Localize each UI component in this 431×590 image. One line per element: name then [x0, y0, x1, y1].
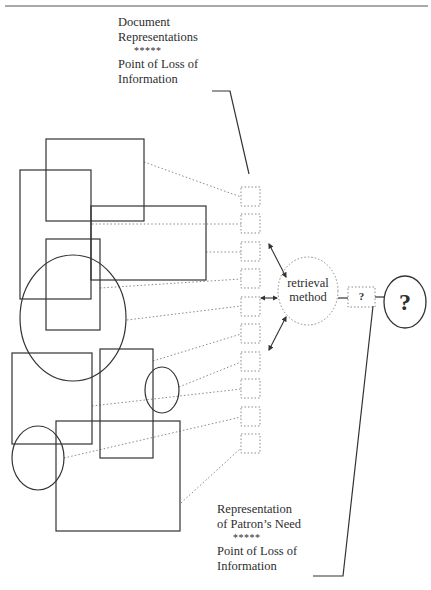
representation-square: [241, 269, 260, 288]
top-label-line2: Representations: [118, 30, 198, 45]
arrow-lower: [269, 317, 286, 350]
document-rect: [46, 139, 144, 221]
retrieval-line2: method: [278, 290, 338, 304]
connector-line: [144, 162, 241, 197]
top-label-line1: Document: [118, 15, 198, 30]
bottom-label-stars: *****: [217, 532, 301, 544]
retrieval-method-label: retrieval method: [278, 276, 338, 304]
bottom-label-line4: Information: [217, 559, 301, 574]
top-label-line3: Point of Loss of: [118, 57, 198, 72]
representation-square: [241, 187, 260, 206]
top-leader-line: [212, 91, 249, 174]
representation-square: [241, 352, 260, 371]
bottom-leader-line: [313, 306, 373, 576]
connector-line: [179, 362, 241, 387]
document-rect: [46, 239, 100, 330]
representation-square: [241, 407, 260, 426]
bottom-label: Representation of Patron’s Need ***** Po…: [217, 502, 301, 574]
representation-square: [241, 297, 260, 316]
document-ellipse: [20, 255, 126, 381]
top-label: Document Representations ***** Point of …: [118, 15, 198, 87]
top-label-stars: *****: [118, 45, 198, 57]
document-shapes: [12, 139, 206, 531]
patron-need-label: ?: [384, 288, 426, 316]
connector-line: [181, 448, 241, 503]
connector-line: [92, 389, 241, 406]
bottom-label-line2: of Patron’s Need: [217, 517, 301, 532]
query-box-label: ?: [348, 289, 375, 304]
bottom-label-line1: Representation: [217, 502, 301, 517]
bottom-label-line3: Point of Loss of: [217, 544, 301, 559]
document-rect: [56, 421, 180, 531]
representation-square: [241, 242, 260, 261]
document-ellipse: [145, 367, 179, 413]
representation-square: [241, 214, 260, 233]
retrieval-line1: retrieval: [278, 276, 338, 290]
connector-line: [153, 334, 241, 361]
top-label-line4: Information: [118, 72, 198, 87]
connector-line: [127, 306, 241, 320]
document-rect: [91, 206, 206, 280]
representation-squares: [241, 187, 260, 453]
representation-square: [241, 379, 260, 398]
representation-square: [241, 434, 260, 453]
representation-square: [241, 324, 260, 343]
